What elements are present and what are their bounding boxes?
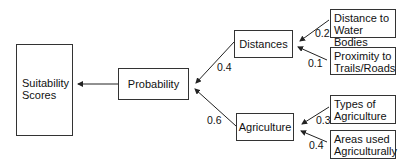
node-suitability-line2: Scores bbox=[22, 89, 72, 101]
weight-types-agriculture: 0.3 bbox=[316, 115, 331, 126]
node-distance-to-water: Distance to Water Bodies bbox=[330, 9, 396, 38]
node-trails-line1: Proximity to bbox=[334, 50, 395, 62]
node-suitability-line1: Suitability bbox=[22, 77, 72, 89]
node-areas-line1: Areas used bbox=[334, 133, 395, 145]
node-agriculture: Agriculture bbox=[236, 113, 294, 141]
node-areas-line2: Agriculturally bbox=[334, 145, 395, 157]
weight-distances-probability: 0.4 bbox=[217, 62, 232, 73]
weight-trails-distances: 0.1 bbox=[308, 58, 323, 69]
weight-areas-agriculture: 0.4 bbox=[309, 140, 324, 151]
node-trails-line2: Trails/Roads bbox=[334, 62, 395, 74]
node-water-line1: Distance to bbox=[334, 12, 395, 24]
node-distances: Distances bbox=[234, 30, 293, 58]
node-areas-used-agriculturally: Areas used Agriculturally bbox=[330, 130, 396, 159]
node-water-line2: Water Bodies bbox=[334, 24, 395, 48]
node-probability: Probability bbox=[118, 68, 189, 100]
node-types-line1: Types of bbox=[334, 98, 395, 110]
node-probability-label: Probability bbox=[128, 78, 179, 90]
node-suitability-scores: Suitability Scores bbox=[16, 44, 73, 136]
node-types-of-agriculture: Types of Agriculture bbox=[330, 95, 396, 124]
node-agriculture-label: Agriculture bbox=[239, 121, 292, 133]
node-proximity-to-trails: Proximity to Trails/Roads bbox=[330, 47, 396, 75]
weight-agriculture-probability: 0.6 bbox=[207, 115, 222, 126]
weight-water-distances: 0.2 bbox=[315, 28, 330, 39]
node-types-line2: Agriculture bbox=[334, 110, 395, 122]
node-distances-label: Distances bbox=[239, 38, 287, 50]
